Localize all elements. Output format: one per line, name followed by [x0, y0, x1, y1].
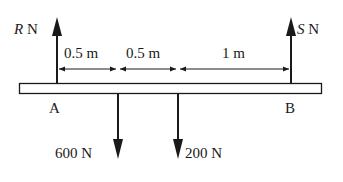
force-arrow-200	[173, 94, 183, 159]
beam-diagram	[0, 0, 343, 182]
force-arrow-s	[286, 17, 296, 83]
dimension-label-1: 0.5 m	[64, 46, 98, 61]
force-arrow-600	[113, 94, 123, 159]
point-label-b: B	[285, 101, 295, 116]
dimension-label-2: 0.5 m	[126, 46, 160, 61]
force-label-200: 200 N	[185, 146, 222, 161]
force-unit-r: N	[27, 21, 38, 37]
force-symbol-s: S	[297, 21, 305, 37]
force-label-600: 600 N	[55, 146, 92, 161]
dimension-label-3: 1 m	[222, 46, 245, 61]
beam	[20, 84, 322, 94]
force-label-s: S N	[297, 22, 319, 37]
force-unit-s: N	[308, 21, 319, 37]
force-arrow-r	[52, 17, 62, 83]
point-label-a: A	[49, 101, 60, 116]
force-label-r: R N	[14, 22, 38, 37]
force-symbol-r: R	[14, 21, 23, 37]
